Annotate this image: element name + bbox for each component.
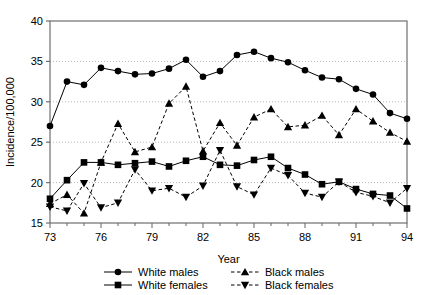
- x-tick-label-94: 94: [401, 231, 413, 243]
- legend-marker: [115, 282, 122, 289]
- data-point-89: [319, 181, 326, 188]
- y-tick-label-25: 25: [31, 136, 43, 148]
- data-point-74: [64, 78, 71, 85]
- data-point-94: [404, 205, 411, 212]
- data-point-88: [302, 67, 309, 74]
- data-point-81: [183, 157, 190, 164]
- y-tick-label-35: 35: [31, 55, 43, 67]
- data-point-86: [268, 55, 275, 62]
- data-point-81: [183, 56, 190, 63]
- data-point-77: [115, 68, 122, 75]
- data-point-85: [251, 48, 258, 55]
- x-tick-label-73: 73: [44, 231, 56, 243]
- data-point-86: [268, 153, 275, 160]
- data-point-76: [98, 65, 105, 72]
- legend-marker: [115, 269, 122, 276]
- data-point-89: [319, 74, 326, 81]
- data-point-78: [132, 160, 139, 167]
- data-point-88: [302, 171, 309, 178]
- data-point-79: [149, 70, 156, 77]
- data-point-75: [81, 159, 88, 166]
- x-tick-label-85: 85: [248, 231, 260, 243]
- x-axis-title: Year: [217, 253, 240, 265]
- data-point-91: [353, 86, 360, 93]
- data-point-84: [234, 162, 241, 169]
- data-point-93: [387, 110, 394, 117]
- x-tick-label-79: 79: [146, 231, 158, 243]
- data-point-80: [166, 163, 173, 170]
- data-point-79: [149, 158, 156, 165]
- data-point-73: [47, 123, 54, 130]
- data-point-87: [285, 59, 292, 66]
- data-point-74: [64, 177, 71, 184]
- data-point-78: [132, 71, 139, 78]
- chart-figure: 7376798285889194 152025303540 Year Incid…: [0, 0, 424, 295]
- data-point-83: [217, 68, 224, 75]
- data-point-80: [166, 65, 173, 72]
- legend-label: Black males: [265, 266, 325, 278]
- legend-label: White females: [138, 279, 208, 291]
- data-point-82: [200, 73, 207, 80]
- data-point-93: [387, 192, 394, 199]
- chart-background: [0, 0, 424, 295]
- data-point-94: [404, 115, 411, 122]
- data-point-87: [285, 165, 292, 172]
- y-tick-label-15: 15: [31, 217, 43, 229]
- data-point-85: [251, 157, 258, 164]
- incidence-line-chart: 7376798285889194 152025303540 Year Incid…: [0, 0, 424, 295]
- data-point-90: [336, 76, 343, 83]
- data-point-83: [217, 162, 224, 169]
- data-point-92: [370, 91, 377, 98]
- legend-label: White males: [138, 266, 199, 278]
- y-axis-title: Incidence/100,000: [4, 77, 16, 167]
- data-point-75: [81, 82, 88, 89]
- x-tick-label-88: 88: [299, 231, 311, 243]
- x-tick-label-91: 91: [350, 231, 362, 243]
- y-tick-label-20: 20: [31, 177, 43, 189]
- legend-label: Black females: [265, 279, 334, 291]
- x-tick-label-76: 76: [95, 231, 107, 243]
- y-tick-label-30: 30: [31, 96, 43, 108]
- data-point-77: [115, 162, 122, 169]
- y-tick-label-40: 40: [31, 15, 43, 27]
- data-point-84: [234, 52, 241, 59]
- data-point-82: [200, 153, 207, 160]
- x-tick-label-82: 82: [197, 231, 209, 243]
